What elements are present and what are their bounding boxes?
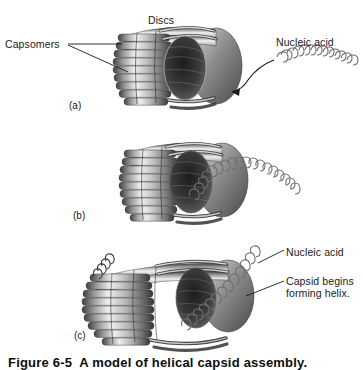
capsomer-rods-bottom-a — [168, 98, 215, 108]
capsomer-rods-front-c — [82, 274, 154, 345]
panel-c-illustration — [82, 246, 284, 351]
panel-b-illustration — [119, 143, 300, 223]
capsomer-rods-front-b — [119, 150, 178, 221]
label-capsid-begins-forming-helix: Capsid begins forming helix. — [286, 275, 354, 299]
disc-stack-c — [82, 260, 254, 350]
capsomer-rods-bottom-b — [174, 213, 221, 223]
label-capsomers: Capsomers — [5, 38, 60, 50]
disc-stack-b — [119, 143, 248, 223]
figure-caption: Figure 6-5 A model of helical capsid ass… — [8, 355, 307, 370]
label-nucleic-acid-panel-c: Nucleic acid — [286, 246, 344, 258]
label-discs: Discs — [148, 14, 174, 26]
capsomer-rods-bottom-c — [150, 338, 227, 350]
panel-label-b: (b) — [73, 210, 85, 221]
label-nucleic-acid-panel-a: Nucleic acid — [276, 36, 334, 48]
panel-label-a: (a) — [69, 100, 81, 111]
nucleic-acid-strand-a — [277, 45, 358, 65]
disc-stack-a — [113, 27, 242, 108]
panel-label-c: (c) — [74, 330, 86, 341]
